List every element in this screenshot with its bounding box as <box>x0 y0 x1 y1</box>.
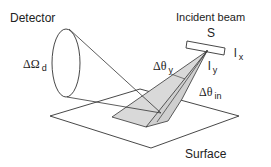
detector-aperture <box>52 29 80 97</box>
lx-subscript: x <box>239 52 244 62</box>
source-label: S <box>207 27 215 39</box>
source-point <box>206 50 208 52</box>
incident-beam-label: Incident beam <box>176 12 245 23</box>
detector-label: Detector <box>10 12 55 24</box>
ly-main: l <box>208 59 211 73</box>
theta-y-subscript: y <box>168 65 173 75</box>
theta-in-subscript: in <box>214 91 221 101</box>
lx-label: lx <box>234 47 243 59</box>
ly-subscript: y <box>213 65 218 75</box>
solid-angle-symbol: ΔΩ <box>23 57 40 71</box>
theta-in-symbol: Δθ <box>199 85 212 99</box>
lx-main: l <box>234 46 237 60</box>
theta-y-label: Δθy <box>153 60 173 72</box>
solid-angle-label: ΔΩd <box>23 58 47 70</box>
surface-label: Surface <box>185 148 226 160</box>
theta-in-label: Δθin <box>199 86 221 98</box>
theta-y-symbol: Δθ <box>153 59 166 73</box>
detector-cone-top <box>69 29 161 113</box>
scattering-geometry-diagram: Detector ΔΩd Incident beam S lx ly Δθy Δ… <box>0 0 271 167</box>
geometry-drawing <box>0 0 271 167</box>
solid-angle-subscript: d <box>42 63 47 73</box>
ly-label: ly <box>208 60 217 72</box>
